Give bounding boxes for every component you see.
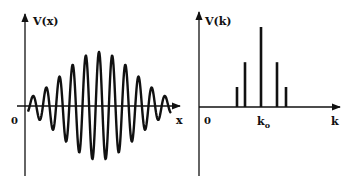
spectrum-bar: [244, 62, 247, 107]
right-origin-label: 0: [204, 115, 211, 126]
spectrum-bar: [276, 62, 279, 107]
k0-label: ko: [257, 115, 271, 130]
left-panel-wave-packet: V(x) 0 x: [11, 14, 183, 176]
left-x-label: x: [176, 114, 183, 127]
left-y-label: V(x): [32, 15, 59, 28]
spectrum-bars: [236, 27, 288, 107]
right-x-label: k: [331, 115, 339, 128]
spectrum-bar: [236, 87, 239, 107]
figure: V(x) 0 x V(k) 0 ko k: [0, 0, 355, 187]
left-origin-label: 0: [11, 115, 18, 126]
right-y-label: V(k): [204, 15, 232, 28]
spectrum-bar: [260, 27, 263, 107]
spectrum-bar: [285, 87, 288, 107]
right-panel-spectrum: V(k) 0 ko k: [199, 12, 340, 176]
